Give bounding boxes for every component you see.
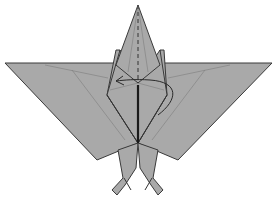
origami-diagram (0, 0, 276, 205)
legs (112, 143, 163, 195)
origami-figure (0, 0, 276, 205)
